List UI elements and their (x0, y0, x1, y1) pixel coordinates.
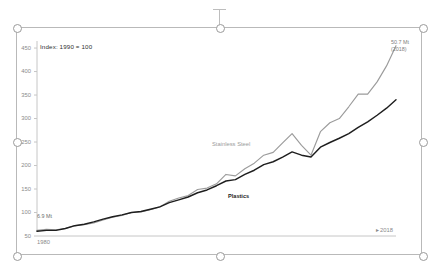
x-tick-label-end-text: 2018 (380, 227, 393, 233)
x-tick-label-end: ▸2018 (376, 226, 393, 233)
series-label-plastics: Plastics (228, 193, 249, 199)
y-tick-label: 400 (9, 68, 31, 74)
series-line-stainless-steel (37, 46, 396, 231)
y-tick-label: 50 (9, 233, 31, 239)
end-value-annotation: 50.7 Mt (2018) (391, 39, 409, 54)
chart-header-note: Index: 1990 = 100 (40, 43, 92, 50)
rotate-handle-cap (213, 9, 226, 10)
slide-canvas[interactable]: Index: 1990 = 100 5010015020025030035040… (0, 0, 439, 276)
end-value-annotation-line1: 50.7 Mt (391, 39, 409, 46)
y-tick-label: 450 (9, 45, 31, 51)
line-chart[interactable]: Index: 1990 = 100 5010015020025030035040… (16, 27, 422, 255)
y-tick-label: 150 (9, 186, 31, 192)
start-value-annotation: 6.9 Mt (37, 213, 52, 220)
series-label-stainless-steel: Stainless Steel (212, 141, 250, 147)
end-value-annotation-line2: (2018) (391, 46, 409, 53)
x-axis-arrow-icon: ▸ (376, 227, 379, 233)
y-tick-label: 100 (9, 209, 31, 215)
y-tick-label: 350 (9, 92, 31, 98)
series-line-plastics (37, 100, 396, 232)
y-tick-label: 200 (9, 162, 31, 168)
x-tick-label-start: 1980 (37, 239, 50, 245)
y-tick-label: 300 (9, 115, 31, 121)
y-tick-label: 250 (9, 139, 31, 145)
